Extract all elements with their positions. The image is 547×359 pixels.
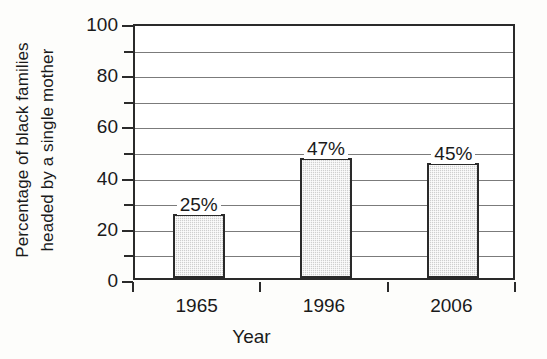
plot-area: 25%47%45% xyxy=(133,24,515,280)
y-axis-minor-tick xyxy=(124,204,133,206)
x-axis-title: Year xyxy=(0,327,547,346)
y-axis-major-tick xyxy=(122,76,133,78)
bar-value-text: 25% xyxy=(177,194,221,215)
x-axis-tick-label: 2006 xyxy=(430,296,472,315)
bar-value-text: 47% xyxy=(304,138,348,159)
bar-value-label: 25% xyxy=(177,195,221,214)
gridline xyxy=(135,77,513,78)
gridline xyxy=(135,52,513,53)
x-axis-title-text: Year xyxy=(232,326,270,347)
bar-value-text: 45% xyxy=(431,143,475,164)
bar xyxy=(427,163,479,278)
y-axis-minor-tick xyxy=(124,51,133,53)
x-axis-tick xyxy=(514,282,516,292)
y-axis-minor-tick xyxy=(124,153,133,155)
x-axis-tick xyxy=(132,282,134,292)
y-axis-title-line-1: Percentage of black families xyxy=(10,42,35,257)
x-axis-tick-label: 1965 xyxy=(176,296,218,315)
x-axis-tick-label: 1996 xyxy=(303,296,345,315)
y-axis-minor-tick xyxy=(124,255,133,257)
bar-chart-figure: Percentage of black families headed by a… xyxy=(0,0,547,359)
y-axis-major-tick xyxy=(122,179,133,181)
x-axis-tick xyxy=(259,282,261,292)
y-axis-tick-label: 100 xyxy=(86,15,118,34)
y-axis-title-line-2: headed by a single mother xyxy=(35,42,60,257)
y-axis-major-tick xyxy=(122,127,133,129)
y-axis-tick-label: 20 xyxy=(97,219,118,238)
y-axis-title: Percentage of black families headed by a… xyxy=(0,0,70,300)
bar-value-label: 45% xyxy=(431,144,475,163)
y-axis-tick-label: 80 xyxy=(97,66,118,85)
y-axis-title-text: Percentage of black families headed by a… xyxy=(10,42,60,257)
y-axis-minor-tick xyxy=(124,102,133,104)
bar xyxy=(300,158,352,278)
y-axis-tick-label: 60 xyxy=(97,117,118,136)
y-axis-major-tick xyxy=(122,230,133,232)
y-axis-tick-label: 40 xyxy=(97,168,118,187)
gridline xyxy=(135,128,513,129)
y-axis-major-tick xyxy=(122,25,133,27)
gridline xyxy=(135,103,513,104)
x-axis-tick xyxy=(387,282,389,292)
bar-value-label: 47% xyxy=(304,139,348,158)
bar xyxy=(173,214,225,278)
y-axis-tick-label: 0 xyxy=(107,271,118,290)
y-axis-tick-labels: 020406080100 xyxy=(72,24,118,280)
